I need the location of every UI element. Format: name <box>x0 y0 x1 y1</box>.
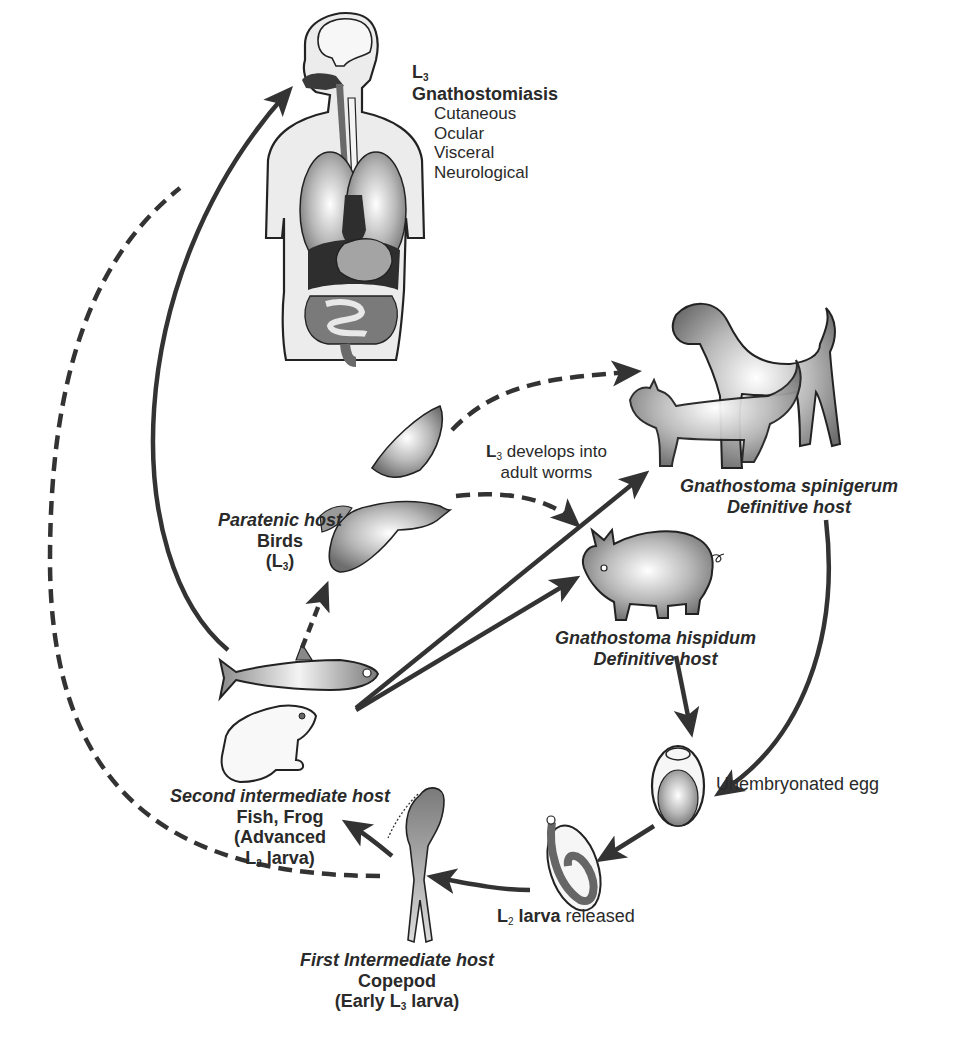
species-spinigerum: Gnathostoma spinigerum <box>680 476 898 497</box>
human-stage: L3 <box>412 62 558 84</box>
arrow-bird-to-dog-dashed <box>452 372 630 430</box>
species-hispidum: Gnathostoma hispidum <box>555 628 756 649</box>
definitive-host-hispidum-label: Gnathostoma hispidum Definitive host <box>555 628 756 669</box>
l2-larva-figure <box>538 816 611 917</box>
pig-figure <box>583 530 724 620</box>
egg-label: Unembryonated egg <box>716 774 879 795</box>
disease-name: Gnathostomiasis <box>412 84 558 105</box>
arrow-l2-to-copepod <box>438 878 530 890</box>
disease-form-neurological: Neurological <box>412 163 558 183</box>
disease-form-cutaneous: Cutaneous <box>412 104 558 124</box>
arrow-fish-to-bird-dashed <box>302 592 324 648</box>
second-intermediate-host-label: Second intermediate host Fish, Frog (Adv… <box>170 786 390 870</box>
role-definitive-2: Definitive host <box>555 649 756 670</box>
human-labels: L3 Gnathostomiasis Cutaneous Ocular Visc… <box>412 62 558 182</box>
disease-form-ocular: Ocular <box>412 124 558 144</box>
copepod-figure <box>388 788 444 942</box>
disease-form-visceral: Visceral <box>412 143 558 163</box>
definitive-host-spinigerum-label: Gnathostoma spinigerum Definitive host <box>680 476 898 517</box>
fish-figure <box>220 644 378 698</box>
development-note: L3 develops into adult worms <box>486 442 607 482</box>
first-intermediate-host-label: First Intermediate host Copepod (Early L… <box>300 950 494 1013</box>
arrow-egg-to-l2 <box>606 826 654 856</box>
human-figure <box>266 13 424 362</box>
arrow-frog-to-pig <box>356 582 570 710</box>
egg-figure <box>652 746 704 826</box>
l2-label: L2 larva released <box>497 906 635 928</box>
arrow-bird-to-pig-dashed <box>456 494 572 520</box>
frog-figure <box>222 705 316 782</box>
role-definitive-1: Definitive host <box>680 497 898 518</box>
paratenic-host-label: Paratenic host Birds (L3) <box>218 510 342 573</box>
